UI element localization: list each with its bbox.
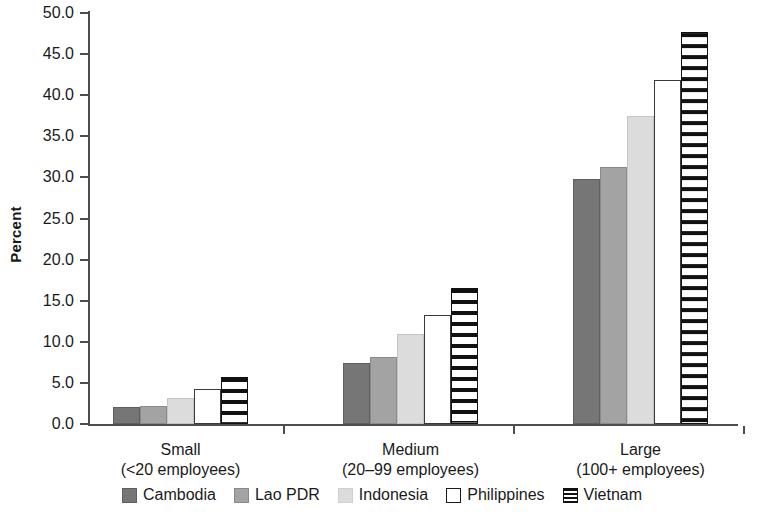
bar-philippines-large bbox=[654, 80, 681, 424]
y-tick-label: 50.0 bbox=[14, 5, 74, 21]
legend-label: Lao PDR bbox=[255, 487, 320, 503]
y-tick-mark bbox=[80, 341, 88, 343]
x-group-label-large: Large(100+ employees) bbox=[541, 440, 741, 480]
x-axis-line bbox=[88, 424, 738, 426]
bar-chart: Percent 0.05.010.015.020.025.030.035.040… bbox=[0, 0, 764, 518]
bar-philippines-medium bbox=[424, 315, 451, 424]
y-tick-label: 35.0 bbox=[14, 128, 74, 144]
y-tick-mark bbox=[80, 94, 88, 96]
x-group-label-small: Small(<20 employees) bbox=[81, 440, 281, 480]
legend-label: Philippines bbox=[467, 487, 544, 503]
y-tick-mark bbox=[80, 218, 88, 220]
y-tick-mark bbox=[80, 423, 88, 425]
legend-label: Vietnam bbox=[584, 487, 642, 503]
bar-cambodia-medium bbox=[343, 363, 370, 424]
y-tick-mark bbox=[80, 12, 88, 14]
x-group-label-name: Small bbox=[81, 440, 281, 460]
bar-cambodia-small bbox=[113, 407, 140, 424]
plot-area: 0.05.010.015.020.025.030.035.040.045.050… bbox=[0, 0, 764, 518]
y-tick-label: 25.0 bbox=[14, 211, 74, 227]
y-tick-label: 30.0 bbox=[14, 169, 74, 185]
y-tick-label: 10.0 bbox=[14, 334, 74, 350]
legend-swatch-icon bbox=[446, 488, 461, 503]
y-tick-label: 0.0 bbox=[14, 416, 74, 432]
bar-indonesia-medium bbox=[397, 334, 424, 424]
y-tick-label: 40.0 bbox=[14, 87, 74, 103]
x-group-label-sublabel: (100+ employees) bbox=[541, 460, 741, 480]
x-tick-mark bbox=[743, 426, 745, 434]
y-tick-label: 20.0 bbox=[14, 252, 74, 268]
legend-swatch-icon bbox=[234, 488, 249, 503]
x-group-label-sublabel: (<20 employees) bbox=[81, 460, 281, 480]
y-axis-line bbox=[88, 11, 90, 426]
y-tick-mark bbox=[80, 176, 88, 178]
y-tick-mark bbox=[80, 135, 88, 137]
bar-philippines-small bbox=[194, 389, 221, 424]
y-tick-label: 5.0 bbox=[14, 375, 74, 391]
x-group-label-name: Medium bbox=[311, 440, 511, 460]
y-tick-label: 15.0 bbox=[14, 293, 74, 309]
y-tick-mark bbox=[80, 382, 88, 384]
legend-item-lao-pdr[interactable]: Lao PDR bbox=[234, 487, 320, 503]
legend-swatch-icon bbox=[563, 488, 578, 503]
legend-item-indonesia[interactable]: Indonesia bbox=[338, 487, 428, 503]
x-tick-mark bbox=[283, 426, 285, 434]
legend-swatch-icon bbox=[338, 488, 353, 503]
legend-label: Cambodia bbox=[143, 487, 216, 503]
bar-vietnam-small bbox=[221, 377, 248, 424]
bar-cambodia-large bbox=[573, 179, 600, 424]
chart-legend: CambodiaLao PDRIndonesiaPhilippinesVietn… bbox=[0, 487, 764, 503]
x-tick-mark bbox=[513, 426, 515, 434]
bar-indonesia-large bbox=[627, 116, 654, 424]
y-tick-mark bbox=[80, 259, 88, 261]
bar-lao-pdr-medium bbox=[370, 357, 397, 424]
y-tick-mark bbox=[80, 53, 88, 55]
legend-swatch-icon bbox=[122, 488, 137, 503]
legend-item-vietnam[interactable]: Vietnam bbox=[563, 487, 642, 503]
x-group-label-name: Large bbox=[541, 440, 741, 460]
bar-vietnam-large bbox=[681, 32, 708, 424]
legend-item-cambodia[interactable]: Cambodia bbox=[122, 487, 216, 503]
bar-vietnam-medium bbox=[451, 288, 478, 424]
bar-lao-pdr-small bbox=[140, 406, 167, 424]
legend-label: Indonesia bbox=[359, 487, 428, 503]
x-group-label-medium: Medium(20–99 employees) bbox=[311, 440, 511, 480]
y-tick-mark bbox=[80, 300, 88, 302]
bar-lao-pdr-large bbox=[600, 167, 627, 424]
bar-indonesia-small bbox=[167, 398, 194, 424]
x-group-label-sublabel: (20–99 employees) bbox=[311, 460, 511, 480]
y-tick-label: 45.0 bbox=[14, 46, 74, 62]
legend-item-philippines[interactable]: Philippines bbox=[446, 487, 544, 503]
